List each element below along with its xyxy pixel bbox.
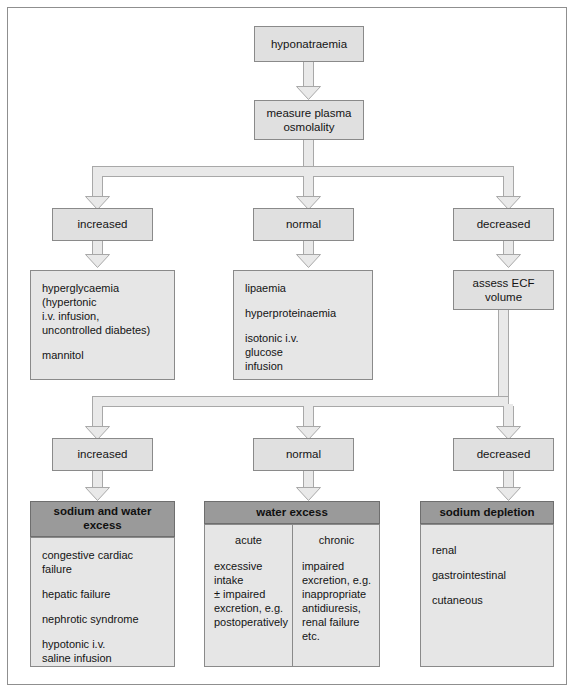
node-osmolality-increased-label: increased: [78, 217, 128, 231]
panel-sodium-and-water-excess: congestive cardiac failure hepatic failu…: [30, 537, 175, 667]
diagram-frame: hyponatraemia measure plasma osmolality: [7, 7, 567, 685]
connector-measure-to-bar1: [303, 140, 314, 168]
connector-normal-to-causes: [303, 241, 314, 255]
node-osmolality-increased: increased: [52, 208, 153, 241]
cause-item: hyperproteinaemia: [245, 306, 363, 320]
connector-bar2-to-normal: [303, 406, 314, 427]
joint-mask: [304, 140, 313, 143]
connector-bar1-to-normal: [303, 176, 314, 197]
arrowhead-to-measure: [296, 86, 321, 100]
diagram-page: hyponatraemia measure plasma osmolality: [0, 0, 574, 692]
outcome-item: nephrotic syndrome: [42, 612, 165, 626]
connector-assess-to-bar2: [498, 310, 509, 397]
arrowhead-outcome-1: [85, 487, 110, 501]
outcome-header-label: sodium and water excess: [54, 505, 152, 533]
panel-normal-osmolality-causes: lipaemia hyperproteinaemia isotonic i.v.…: [233, 270, 373, 380]
joint-mask: [499, 310, 508, 313]
joint-mask: [304, 62, 313, 65]
cause-item: isotonic i.v. glucose infusion: [245, 331, 363, 373]
connector-bar2-to-decreased: [503, 406, 514, 427]
outcome-item: congestive cardiac failure: [42, 548, 165, 576]
panel-increased-osmolality-causes: hyperglycaemia (hypertonic i.v. infusion…: [30, 270, 175, 380]
node-ecf-decreased-label: decreased: [477, 447, 531, 461]
distribution-bar-ecf: [92, 396, 509, 407]
node-osmolality-decreased: decreased: [453, 208, 554, 241]
connector-start-to-measure: [303, 62, 314, 87]
node-ecf-normal: normal: [253, 438, 354, 471]
outcome-header-water-excess: water excess: [204, 501, 380, 524]
connector-increased-to-causes: [92, 241, 103, 255]
node-measure-osmolality: measure plasma osmolality: [254, 100, 364, 140]
cause-item: lipaemia: [245, 281, 363, 295]
connector-decreased-to-assess: [503, 241, 514, 255]
arrowhead-outcome-2: [296, 487, 321, 501]
column-chronic: chronic impaired excretion, e.g. inappro…: [293, 525, 380, 666]
panel-sodium-depletion: renal gastrointestinal cutaneous: [420, 524, 554, 667]
column-chronic-text: impaired excretion, e.g. inappropriate a…: [293, 546, 380, 643]
connector-bar1-to-increased: [92, 176, 103, 197]
connector-normal-to-outcome: [303, 471, 314, 488]
outcome-item: renal: [432, 543, 544, 557]
joint-mask: [93, 404, 102, 408]
joint-mask: [504, 404, 513, 408]
water-excess-column-divider: [292, 525, 293, 666]
arrowhead-decreased-assess: [496, 254, 521, 268]
outcome-item: cutaneous: [432, 593, 544, 607]
arrowhead-increased-causes: [85, 254, 110, 268]
column-chronic-head: chronic: [293, 525, 380, 546]
node-ecf-decreased: decreased: [453, 438, 554, 471]
connector-increased-to-outcome: [92, 471, 103, 488]
column-acute: acute excessive intake ± impaired excret…: [205, 525, 292, 666]
connector-decreased-to-outcome: [503, 471, 514, 488]
column-acute-text: excessive intake ± impaired excretion, e…: [205, 546, 292, 629]
joint-mask: [504, 174, 513, 178]
outcome-item: hypotonic i.v. saline infusion: [42, 637, 165, 665]
outcome-header-sodium-and-water-excess: sodium and water excess: [30, 501, 175, 537]
outcome-item: hepatic failure: [42, 587, 165, 601]
cause-item: hyperglycaemia (hypertonic i.v. infusion…: [42, 281, 165, 337]
node-ecf-increased: increased: [52, 438, 153, 471]
arrowhead-normal-causes: [296, 254, 321, 268]
joint-mask: [304, 174, 313, 178]
connector-bar1-to-decreased: [503, 176, 514, 197]
joint-mask: [304, 404, 313, 408]
node-ecf-increased-label: increased: [78, 447, 128, 461]
column-acute-head: acute: [205, 525, 292, 546]
connector-bar2-to-increased: [92, 406, 103, 427]
node-measure-osmolality-label: measure plasma osmolality: [266, 106, 351, 135]
outcome-item: gastrointestinal: [432, 568, 544, 582]
arrowhead-outcome-3: [496, 487, 521, 501]
node-osmolality-decreased-label: decreased: [477, 217, 531, 231]
node-hyponatraemia-label: hyponatraemia: [271, 37, 347, 51]
cause-item: mannitol: [42, 348, 165, 362]
outcome-header-label: sodium depletion: [439, 506, 534, 520]
node-osmolality-normal-label: normal: [286, 217, 321, 231]
node-assess-ecf-volume: assess ECF volume: [453, 270, 554, 310]
node-ecf-normal-label: normal: [286, 447, 321, 461]
node-hyponatraemia: hyponatraemia: [254, 26, 364, 62]
joint-mask: [304, 167, 313, 170]
outcome-header-sodium-depletion: sodium depletion: [420, 501, 554, 524]
node-osmolality-normal: normal: [253, 208, 354, 241]
outcome-header-label: water excess: [256, 506, 328, 520]
joint-mask: [93, 174, 102, 178]
node-assess-ecf-volume-label: assess ECF volume: [473, 276, 535, 305]
